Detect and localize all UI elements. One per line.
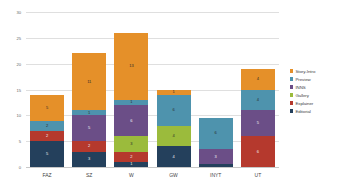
legend-item-gallery[interactable]: Gallery xyxy=(290,91,340,99)
bar-segment-story-intro[interactable]: 4 xyxy=(241,69,275,90)
bar-segment-story-intro[interactable]: 11 xyxy=(72,53,106,110)
bar-stack: 1236113 xyxy=(114,33,148,167)
bar-segment-story-intro[interactable]: 1 xyxy=(157,90,191,95)
legend-item-editorial[interactable]: Editorial xyxy=(290,107,340,115)
bar-group-gw[interactable]: 4461 xyxy=(157,12,191,167)
bar-stack: 6544 xyxy=(241,69,275,167)
bar-stack: 4461 xyxy=(157,90,191,167)
legend-swatch-icon xyxy=(290,69,293,72)
y-axis-tick-label: 0 xyxy=(19,165,21,170)
bar-segment-value-label: 1 xyxy=(172,90,174,94)
bar-segment-editorial[interactable]: 5 xyxy=(30,141,64,167)
legend-item-label: Story-Intro xyxy=(295,69,315,74)
bar-segment-value-label: 4 xyxy=(172,155,174,159)
legend-item-preview[interactable]: Preview xyxy=(290,75,340,83)
x-axis-tick-label-w: W xyxy=(114,168,148,178)
bar-segment-value-label: 3 xyxy=(215,155,217,159)
bar-segment-preview[interactable]: 6 xyxy=(157,95,191,126)
bar-segment-value-label: 2 xyxy=(46,124,48,128)
bar-segment-value-label: 1 xyxy=(130,162,132,166)
x-axis-tick-label-sz: SZ xyxy=(72,168,106,178)
y-axis-tick-label: 30 xyxy=(17,10,21,15)
legend-swatch-icon xyxy=(290,101,293,104)
legend-swatch-icon xyxy=(290,109,293,112)
bar-segment-value-label: 6 xyxy=(172,108,174,112)
x-axis-tick-label-inyt: INYT xyxy=(199,168,233,178)
bar-segment-inns[interactable]: 5 xyxy=(72,115,106,141)
bar-segment-value-label: 2 xyxy=(88,144,90,148)
bar-segment-preview[interactable]: 4 xyxy=(241,90,275,111)
bar-group-sz[interactable]: 325111 xyxy=(72,12,106,167)
bar-group-ut[interactable]: 6544 xyxy=(241,12,275,167)
legend-item-label: INNS xyxy=(295,85,305,90)
bar-segment-inns[interactable]: 6 xyxy=(114,105,148,136)
bar-segment-value-label: 5 xyxy=(257,121,259,125)
y-axis-tick-label: 25 xyxy=(17,35,21,40)
legend-item-explainer[interactable]: Explainer xyxy=(290,99,340,107)
bar-segment-value-label: 4 xyxy=(257,77,259,81)
stacked-bar-chart: 051015202530 522532511112361134461366544… xyxy=(0,0,341,195)
bar-segment-value-label: 3 xyxy=(130,142,132,146)
legend-item-label: Gallery xyxy=(295,93,309,98)
bar-segment-inns[interactable]: 3 xyxy=(199,149,233,165)
y-axis: 051015202530 xyxy=(0,12,24,167)
bar-segment-preview[interactable]: 2 xyxy=(30,121,64,131)
legend-swatch-icon xyxy=(290,93,293,96)
bar-segment-value-label: 6 xyxy=(215,131,217,135)
bar-stack: 325111 xyxy=(72,53,106,167)
bar-segment-explainer[interactable]: 2 xyxy=(114,152,148,162)
x-axis-tick-label-faz: FAZ xyxy=(30,168,64,178)
bar-segment-editorial[interactable]: 1 xyxy=(114,162,148,167)
bar-segment-value-label: 11 xyxy=(87,80,91,84)
bar-segment-inns[interactable]: 5 xyxy=(241,110,275,136)
bar-segment-value-label: 3 xyxy=(88,157,90,161)
bar-stack: 5225 xyxy=(30,95,64,167)
bar-segment-value-label: 1 xyxy=(130,100,132,104)
y-axis-tick-label: 20 xyxy=(17,61,21,66)
bar-segment-value-label: 5 xyxy=(88,126,90,130)
bar-series-container: 522532511112361134461366544 xyxy=(26,12,279,167)
bar-segment-value-label: 13 xyxy=(129,64,133,68)
y-axis-tick-label: 5 xyxy=(19,139,21,144)
bar-segment-story-intro[interactable]: 13 xyxy=(114,33,148,100)
legend-item-label: Editorial xyxy=(295,109,310,114)
bar-segment-value-label: 6 xyxy=(257,150,259,154)
bar-segment-value-label: 2 xyxy=(130,155,132,159)
bar-segment-gallery[interactable]: 4 xyxy=(157,126,191,147)
x-axis-tick-label-ut: UT xyxy=(241,168,275,178)
bar-segment-explainer[interactable]: 2 xyxy=(30,131,64,141)
bar-segment-story-intro[interactable]: 5 xyxy=(30,95,64,121)
x-axis-tick-label-gw: GW xyxy=(157,168,191,178)
bar-group-faz[interactable]: 5225 xyxy=(30,12,64,167)
bar-segment-gallery[interactable]: 3 xyxy=(114,136,148,152)
y-axis-tick-label: 15 xyxy=(17,87,21,92)
chart-legend: Story-IntroPreviewINNSGalleryExplainerEd… xyxy=(290,67,340,115)
bar-segment-value-label: 6 xyxy=(130,119,132,123)
y-axis-tick-label: 10 xyxy=(17,113,21,118)
bar-segment-explainer[interactable]: 2 xyxy=(72,141,106,151)
bar-stack: 36 xyxy=(199,118,233,167)
plot-area: 522532511112361134461366544 xyxy=(26,12,279,167)
bar-segment-editorial[interactable]: 3 xyxy=(72,152,106,168)
bar-segment-preview[interactable]: 1 xyxy=(114,100,148,105)
bar-segment-preview[interactable]: 1 xyxy=(72,110,106,115)
legend-item-story-intro[interactable]: Story-Intro xyxy=(290,67,340,75)
bar-segment-editorial[interactable] xyxy=(199,164,233,167)
bar-segment-value-label: 5 xyxy=(46,106,48,110)
legend-item-label: Explainer xyxy=(295,101,313,106)
bar-segment-preview[interactable]: 6 xyxy=(199,118,233,149)
bar-segment-value-label: 4 xyxy=(172,134,174,138)
bar-segment-explainer[interactable]: 6 xyxy=(241,136,275,167)
legend-swatch-icon xyxy=(290,85,293,88)
bar-segment-editorial[interactable]: 4 xyxy=(157,146,191,167)
bar-group-inyt[interactable]: 36 xyxy=(199,12,233,167)
bar-group-w[interactable]: 1236113 xyxy=(114,12,148,167)
legend-swatch-icon xyxy=(290,77,293,80)
bar-segment-value-label: 5 xyxy=(46,152,48,156)
legend-item-label: Preview xyxy=(295,77,310,82)
bar-segment-value-label: 1 xyxy=(88,111,90,115)
bar-segment-value-label: 2 xyxy=(46,134,48,138)
x-axis: FAZSZWGWINYTUT xyxy=(26,168,279,182)
bar-segment-value-label: 4 xyxy=(257,98,259,102)
legend-item-inns[interactable]: INNS xyxy=(290,83,340,91)
